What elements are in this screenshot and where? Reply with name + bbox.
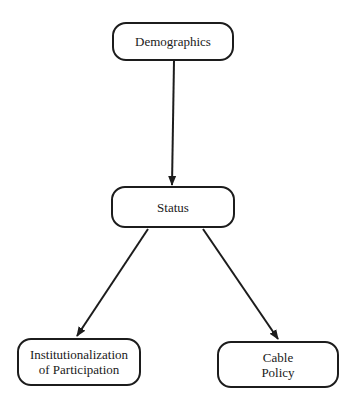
node-institutionalization-label: Institutionalization of Participation <box>30 347 128 377</box>
diagram-canvas: Demographics Status Institutionalization… <box>0 0 358 411</box>
node-cable-policy: Cable Policy <box>217 341 339 388</box>
node-status-label: Status <box>157 200 189 215</box>
node-cable-policy-label: Cable Policy <box>261 350 294 380</box>
arrow-status-to-institutionalization <box>77 229 148 336</box>
arrow-demographics-to-status <box>172 61 174 185</box>
node-status: Status <box>111 186 235 228</box>
node-institutionalization-of-participation: Institutionalization of Participation <box>17 338 141 386</box>
node-demographics-label: Demographics <box>135 34 211 49</box>
arrow-status-to-cable-policy <box>203 229 278 339</box>
node-demographics: Demographics <box>112 22 234 61</box>
